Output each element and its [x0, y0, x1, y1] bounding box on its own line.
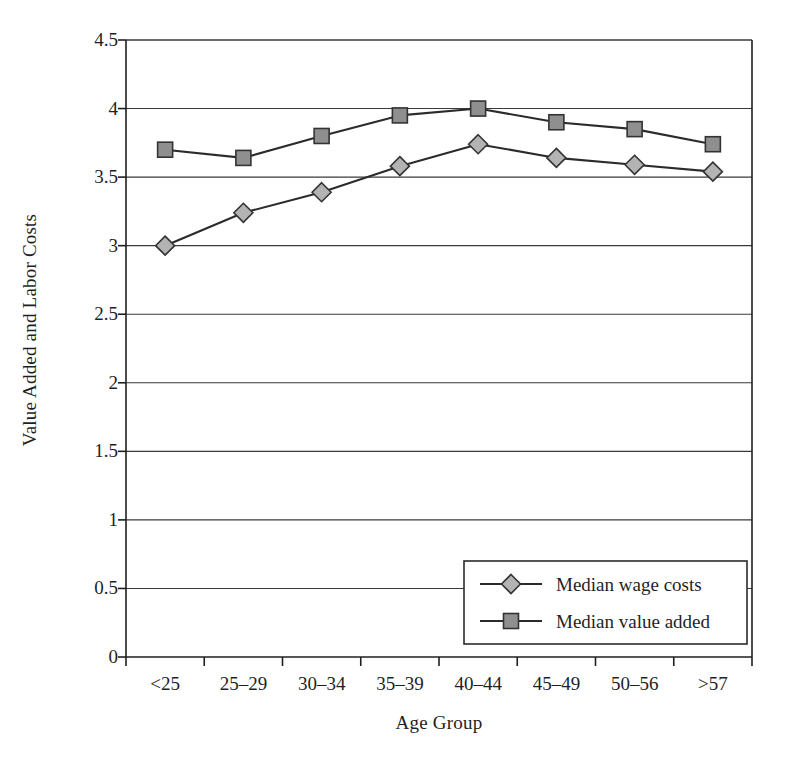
data-point-marker-square	[705, 137, 720, 152]
data-point-marker-square	[471, 101, 486, 116]
data-point-marker-diamond	[625, 155, 644, 174]
data-point-marker-diamond	[703, 162, 722, 181]
legend-label: Median value added	[556, 611, 711, 632]
legend: Median wage costsMedian value added	[464, 561, 747, 644]
data-point-marker-diamond	[234, 203, 253, 222]
data-point-marker-square	[627, 122, 642, 137]
chart-figure: Value Added and Labor Costs 00.511.522.5…	[0, 0, 785, 767]
data-point-marker-diamond	[156, 236, 175, 255]
data-point-marker-square	[549, 115, 564, 130]
data-point-marker-diamond	[390, 157, 409, 176]
data-point-marker-diamond	[312, 183, 331, 202]
x-tick-marks	[126, 657, 752, 666]
data-point-marker-square	[236, 150, 251, 165]
legend-label: Median wage costs	[556, 574, 702, 595]
data-point-marker-square	[158, 142, 173, 157]
x-axis-title: Age Group	[126, 712, 752, 734]
plot-area: Median wage costsMedian value added	[0, 0, 785, 767]
data-point-marker-diamond	[469, 135, 488, 154]
data-point-marker-diamond	[547, 148, 566, 167]
legend-entry-2[interactable]: Median value added	[480, 611, 711, 632]
legend-entry-1[interactable]: Median wage costs	[480, 574, 702, 595]
gridlines	[126, 40, 752, 588]
data-point-marker-square	[504, 614, 519, 629]
data-point-marker-square	[314, 128, 329, 143]
data-point-marker-square	[392, 108, 407, 123]
y-tick-marks	[118, 40, 126, 657]
